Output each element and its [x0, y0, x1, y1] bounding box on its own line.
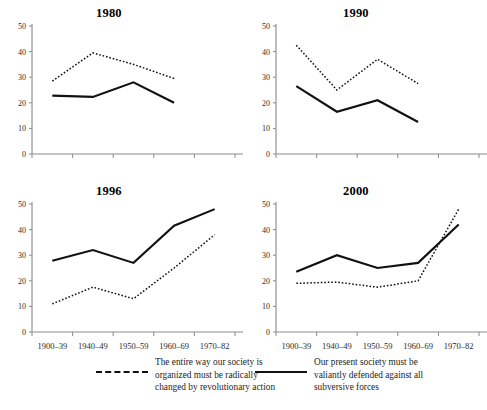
y-tick-label: 50: [262, 200, 270, 209]
y-tick-label: 50: [18, 22, 26, 31]
y-tick-label: 10: [18, 124, 26, 133]
y-tick-label: 10: [262, 124, 270, 133]
plot-area-2000: 504030201001900–391940–491950–591960–691…: [244, 182, 487, 354]
y-tick-label: 30: [262, 251, 270, 260]
plot-area-1996: 504030201001900–391940–491950–591960–691…: [0, 182, 243, 354]
legend-dashed-line-icon: [96, 356, 148, 378]
plot-area-1990: 50403020100: [244, 4, 487, 176]
x-tick-label: 1900–39: [281, 341, 311, 351]
y-tick-label: 0: [22, 328, 26, 337]
chart-panel-1996: 1996 504030201001900–391940–491950–59196…: [0, 182, 243, 354]
x-tick-label: 1950–59: [363, 341, 393, 351]
y-tick-label: 20: [262, 277, 270, 286]
x-tick-label: 1900–39: [37, 341, 67, 351]
figure-legend: The entire way our society is organized …: [0, 352, 487, 410]
y-tick-label: 50: [18, 200, 26, 209]
y-tick-label: 30: [18, 73, 26, 82]
y-tick-label: 10: [18, 302, 26, 311]
y-tick-label: 20: [262, 99, 270, 108]
y-tick-label: 40: [262, 226, 270, 235]
y-tick-label: 30: [18, 251, 26, 260]
x-tick-label: 1970–82: [200, 341, 230, 351]
x-tick-label: 1940–49: [78, 341, 108, 351]
y-tick-label: 40: [262, 48, 270, 57]
y-tick-label: 0: [266, 328, 270, 337]
x-tick-label: 1960–69: [159, 341, 189, 351]
x-tick-label: 1950–59: [119, 341, 149, 351]
chart-panel-2000: 2000 504030201001900–391940–491950–59196…: [244, 182, 487, 354]
y-tick-label: 40: [18, 226, 26, 235]
x-tick-label: 1970–82: [444, 341, 474, 351]
y-tick-label: 0: [22, 150, 26, 159]
plot-area-1980: 50403020100: [0, 4, 243, 176]
y-tick-label: 40: [18, 48, 26, 57]
y-tick-label: 30: [262, 73, 270, 82]
x-tick-label: 1940–49: [322, 341, 352, 351]
y-tick-label: 10: [262, 302, 270, 311]
series-line-dotted: [52, 235, 214, 304]
chart-panel-1980: 1980 50403020100: [0, 4, 243, 176]
series-line-solid: [296, 224, 458, 271]
y-tick-label: 20: [18, 277, 26, 286]
series-line-dotted: [52, 53, 174, 81]
x-tick-label: 1960–69: [403, 341, 433, 351]
legend-entry-dashed: The entire way our society is organized …: [96, 356, 275, 394]
y-tick-label: 20: [18, 99, 26, 108]
y-tick-label: 0: [266, 150, 270, 159]
legend-solid-line-icon: [255, 356, 307, 378]
series-line-solid: [52, 82, 174, 102]
chart-figure-root: { "figure": { "panel_titles": ["1980", "…: [0, 0, 487, 410]
y-tick-label: 50: [262, 22, 270, 31]
legend-entry-solid: Our present society must be valiantly de…: [255, 356, 423, 394]
series-line-dotted: [296, 45, 418, 90]
series-line-solid: [296, 86, 418, 122]
chart-panel-1990: 1990 50403020100: [244, 4, 487, 176]
legend-label-solid: Our present society must be valiantly de…: [307, 356, 423, 394]
